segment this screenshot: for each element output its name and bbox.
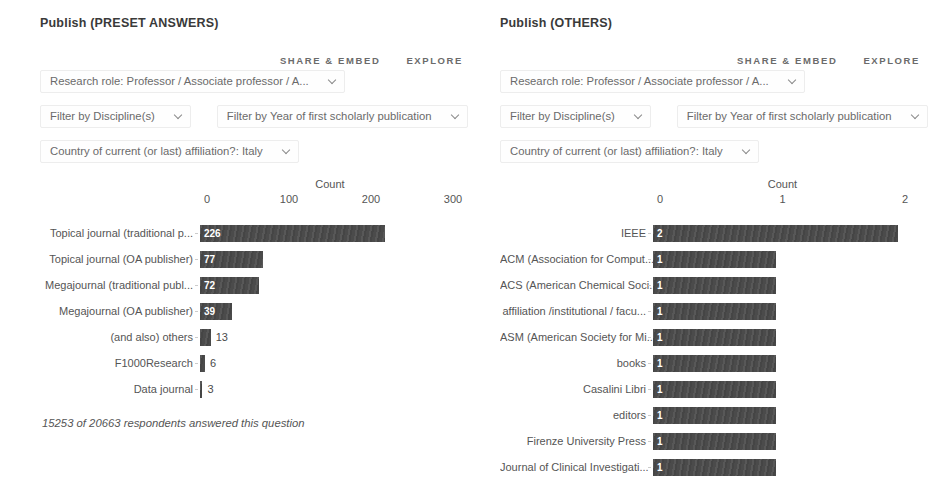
year-filter-label: Filter by Year of first scholarly public… — [687, 110, 892, 122]
explore-link[interactable]: EXPLORE — [863, 55, 920, 66]
chart-row: Data journal3 — [40, 376, 453, 402]
bar[interactable]: 1 — [653, 303, 776, 320]
bar[interactable]: 1 — [653, 433, 776, 450]
bar[interactable]: 1 — [653, 355, 776, 372]
bar-track: 1 — [653, 251, 898, 268]
x-axis: Count 012 — [660, 178, 905, 208]
value-label: 72 — [200, 280, 215, 291]
category-label: Casalini Libri — [500, 383, 653, 395]
discipline-filter-label: Filter by Discipline(s) — [50, 110, 155, 122]
value-label: 1 — [653, 462, 663, 473]
respondents-footnote: 15253 of 20663 respondents answered this… — [42, 417, 305, 429]
chart-row: ASM (American Society for Mi...1 — [500, 324, 905, 350]
chart-row: Journal of Clinical Investigati...1 — [500, 454, 905, 480]
bar[interactable]: 226 — [200, 225, 385, 242]
category-label: IEEE — [500, 227, 653, 239]
bar-track: 1 — [653, 303, 898, 320]
panel-actions: SHARE & EMBED EXPLORE — [737, 55, 920, 66]
bar-track: 3 — [200, 381, 446, 398]
x-axis-ticks: 0100200300 — [207, 193, 453, 208]
bar[interactable]: 1 — [653, 459, 776, 476]
chevron-down-icon — [634, 110, 642, 118]
bar-track: 1 — [653, 329, 898, 346]
value-label: 1 — [653, 332, 663, 343]
discipline-filter[interactable]: Filter by Discipline(s) — [500, 105, 651, 128]
bar-track: 1 — [653, 459, 898, 476]
bar[interactable]: 1 — [653, 277, 776, 294]
bar[interactable]: 2 — [653, 225, 898, 242]
chevron-down-icon — [327, 75, 335, 83]
bar[interactable]: 77 — [200, 251, 263, 268]
bar[interactable] — [200, 381, 202, 398]
research-role-filter[interactable]: Research role: Professor / Associate pro… — [40, 70, 345, 93]
chevron-down-icon — [741, 145, 749, 153]
x-axis-title: Count — [207, 178, 453, 193]
x-tick-label: 0 — [204, 193, 210, 205]
panel-title: Publish (OTHERS) — [500, 16, 612, 30]
category-label: ASM (American Society for Mi... — [500, 331, 653, 343]
bar[interactable] — [200, 329, 211, 346]
x-axis: Count 0100200300 — [207, 178, 453, 208]
x-axis-ticks: 012 — [660, 193, 905, 208]
filter-bar: Research role: Professor / Associate pro… — [40, 70, 463, 175]
chart-row: Megajournal (traditional publ...72 — [40, 272, 453, 298]
explore-link[interactable]: EXPLORE — [406, 55, 463, 66]
chart-row: (and also) others13 — [40, 324, 453, 350]
bar[interactable]: 39 — [200, 303, 232, 320]
bar-track: 2 — [653, 225, 898, 242]
value-label: 1 — [653, 280, 663, 291]
year-filter[interactable]: Filter by Year of first scholarly public… — [217, 105, 468, 128]
x-tick-label: 200 — [362, 193, 380, 205]
chart-row: Casalini Libri1 — [500, 376, 905, 402]
bar[interactable]: 1 — [653, 381, 776, 398]
research-role-filter[interactable]: Research role: Professor / Associate pro… — [500, 70, 805, 93]
value-label: 1 — [653, 384, 663, 395]
category-label: Megajournal (traditional publ... — [40, 279, 200, 291]
discipline-filter[interactable]: Filter by Discipline(s) — [40, 105, 191, 128]
research-role-filter-label: Research role: Professor / Associate pro… — [50, 75, 309, 87]
bar[interactable]: 72 — [200, 277, 259, 294]
chart-row: affiliation /institutional / facu...1 — [500, 298, 905, 324]
category-label: Megajournal (OA publisher) — [40, 305, 200, 317]
bar[interactable] — [200, 355, 205, 372]
bar[interactable]: 1 — [653, 329, 776, 346]
discipline-filter-label: Filter by Discipline(s) — [510, 110, 615, 122]
chart-row: ACM (Association for Comput...1 — [500, 246, 905, 272]
value-label: 6 — [210, 357, 216, 369]
chart-rows: Topical journal (traditional p...226Topi… — [40, 220, 453, 402]
bar-chart-preset-answers: Count 0100200300 Topical journal (tradit… — [40, 178, 453, 402]
bar-track: 1 — [653, 355, 898, 372]
chart-row: Firenze University Press1 — [500, 428, 905, 454]
category-label: Journal of Clinical Investigati... — [500, 461, 653, 473]
bar-track: 1 — [653, 433, 898, 450]
value-label: 13 — [216, 331, 228, 343]
country-filter-label: Country of current (or last) affiliation… — [50, 145, 263, 157]
chevron-down-icon — [910, 110, 918, 118]
bar[interactable]: 1 — [653, 251, 776, 268]
year-filter[interactable]: Filter by Year of first scholarly public… — [677, 105, 928, 128]
value-label: 39 — [200, 306, 215, 317]
country-filter[interactable]: Country of current (or last) affiliation… — [500, 140, 759, 163]
value-label: 1 — [653, 358, 663, 369]
panel-actions: SHARE & EMBED EXPLORE — [280, 55, 463, 66]
bar-track: 39 — [200, 303, 446, 320]
chart-rows: IEEE2ACM (Association for Comput...1ACS … — [500, 220, 905, 480]
share-embed-link[interactable]: SHARE & EMBED — [280, 55, 381, 66]
value-label: 1 — [653, 410, 663, 421]
value-label: 1 — [653, 436, 663, 447]
bar[interactable]: 1 — [653, 407, 776, 424]
country-filter[interactable]: Country of current (or last) affiliation… — [40, 140, 299, 163]
value-label: 3 — [207, 383, 213, 395]
bar-chart-others: Count 012 IEEE2ACM (Association for Comp… — [500, 178, 905, 480]
filter-bar: Research role: Professor / Associate pro… — [500, 70, 936, 175]
chevron-down-icon — [281, 145, 289, 153]
chart-row: Topical journal (traditional p...226 — [40, 220, 453, 246]
bar-track: 77 — [200, 251, 446, 268]
chevron-down-icon — [450, 110, 458, 118]
share-embed-link[interactable]: SHARE & EMBED — [737, 55, 838, 66]
value-label: 2 — [653, 228, 663, 239]
bar-track: 1 — [653, 277, 898, 294]
bar-track: 13 — [200, 329, 446, 346]
chart-row: ACS (American Chemical Soci...1 — [500, 272, 905, 298]
chevron-down-icon — [174, 110, 182, 118]
